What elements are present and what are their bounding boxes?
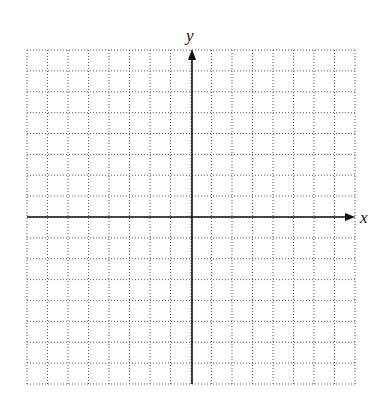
x-axis-label: x (359, 208, 368, 227)
y-axis-label: y (184, 26, 194, 45)
x-axis-arrow-icon (345, 213, 355, 221)
coordinate-plane: x y (0, 0, 380, 401)
y-axis-arrow-icon (188, 49, 196, 60)
